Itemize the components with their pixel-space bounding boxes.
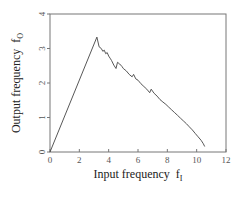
- y-axis-label: Output frequencyfO: [9, 33, 25, 133]
- x-axis-label: Input frequencyfI: [94, 167, 183, 183]
- y-tick-label: 3: [37, 46, 47, 51]
- y-tick-label: 0: [37, 149, 47, 154]
- x-tick-label: 10: [192, 155, 202, 165]
- x-tick-label: 4: [106, 155, 111, 165]
- y-tick-label: 4: [37, 11, 47, 16]
- x-tick-label: 8: [165, 155, 170, 165]
- plot-frame: [50, 14, 226, 152]
- x-tick-label: 6: [136, 155, 141, 165]
- data-line: [50, 37, 205, 152]
- x-axis-ticks: 024681012: [48, 149, 231, 165]
- y-tick-label: 2: [37, 81, 47, 86]
- chart: 024681012 01234 Input frequencyfI Output…: [0, 0, 242, 197]
- y-axis-ticks: 01234: [37, 11, 50, 154]
- x-tick-label: 0: [48, 155, 53, 165]
- x-tick-label: 2: [77, 155, 82, 165]
- x-tick-label: 12: [222, 155, 231, 165]
- y-tick-label: 1: [37, 115, 47, 120]
